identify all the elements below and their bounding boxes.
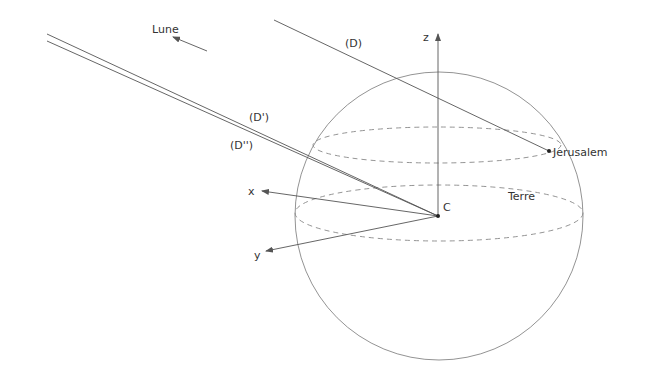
z-axis-label: z <box>423 31 429 44</box>
y-axis <box>266 216 438 251</box>
center-label: C <box>443 201 451 214</box>
moon-direction-arrow <box>173 37 207 51</box>
earth-moon-diagram: Lune (D) (D') (D'') z x y C Terre Jerusa… <box>0 0 651 375</box>
equator <box>295 185 583 241</box>
earth-label: Terre <box>507 190 535 203</box>
line-d <box>274 20 549 151</box>
line-d-prime <box>47 34 438 216</box>
line-d-label: (D) <box>345 37 362 50</box>
x-axis-label: x <box>248 185 255 198</box>
jerusalem-point <box>547 149 551 153</box>
line-d-second <box>47 41 438 216</box>
y-axis-label: y <box>254 249 261 262</box>
center-point <box>436 214 440 218</box>
jerusalem-parallel <box>313 127 561 163</box>
jerusalem-label: Jerusalem <box>552 146 608 159</box>
line-d-second-label: (D'') <box>230 139 253 152</box>
moon-label: Lune <box>152 23 179 36</box>
line-d-prime-label: (D') <box>249 111 269 124</box>
